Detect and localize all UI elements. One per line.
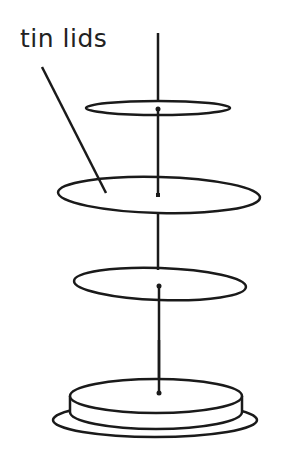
knot-middle-lid — [156, 193, 160, 197]
knot-lower-lid — [157, 284, 162, 289]
knot-top-lid — [156, 107, 161, 112]
label-pointer-line — [42, 67, 106, 193]
base-tin-top — [70, 379, 242, 413]
tin-lids-diagram — [0, 0, 297, 462]
knot-base-tin — [157, 391, 162, 396]
